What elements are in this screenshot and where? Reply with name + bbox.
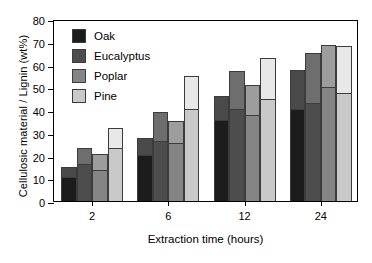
y-tick-label: 20 — [33, 152, 45, 164]
x-tick — [321, 201, 322, 206]
x-tick-label: 2 — [89, 210, 95, 222]
legend: OakEucalyptusPoplarPine — [72, 27, 150, 104]
bar-segment-lower — [93, 171, 107, 201]
bar-segment-divider — [169, 143, 183, 144]
bar-segment-divider — [291, 109, 305, 110]
bar-segment-lower — [306, 104, 320, 201]
bar-segment-divider — [322, 87, 336, 88]
legend-item-pine: Pine — [72, 87, 150, 104]
bar-eucalyptus-2h — [77, 148, 93, 201]
bar-pine-12h — [260, 58, 276, 201]
bar-segment-divider — [93, 170, 107, 171]
y-tick-label: 40 — [33, 106, 45, 118]
y-axis-title: Cellulosic material / Lignin (wt%) — [17, 16, 29, 216]
legend-swatch-icon — [72, 29, 86, 43]
bar-segment-lower — [185, 110, 199, 201]
bar-poplar-12h — [245, 85, 261, 201]
bar-segment-lower — [337, 94, 351, 201]
legend-item-label: Poplar — [94, 70, 127, 82]
legend-swatch-icon — [72, 89, 86, 103]
legend-item-label: Eucalyptus — [94, 50, 150, 62]
bar-segment-divider — [246, 115, 260, 116]
bar-poplar-2h — [92, 154, 108, 201]
bar-segment-divider — [215, 120, 229, 121]
legend-item-label: Oak — [94, 30, 115, 42]
bar-segment-lower — [138, 156, 152, 202]
bar-segment-divider — [154, 141, 168, 142]
plot-area: 01020304050607080261224 OakEucalyptusPop… — [53, 20, 358, 202]
y-tick — [48, 203, 54, 204]
bar-segment-lower — [215, 121, 229, 201]
bar-segment-lower — [62, 178, 76, 201]
bar-eucalyptus-24h — [305, 53, 321, 201]
bar-segment-lower — [78, 165, 92, 201]
bar-segment-lower — [261, 100, 275, 201]
bar-pine-2h — [108, 128, 124, 201]
bar-segment-lower — [230, 110, 244, 201]
bar-pine-24h — [336, 46, 352, 201]
bar-eucalyptus-6h — [153, 112, 169, 201]
bar-segment-lower — [246, 116, 260, 201]
bar-poplar-6h — [168, 121, 184, 201]
y-tick-label: 10 — [33, 174, 45, 186]
bar-pine-6h — [184, 76, 200, 201]
x-tick — [92, 201, 93, 206]
legend-swatch-icon — [72, 49, 86, 63]
x-tick — [168, 201, 169, 206]
legend-item-poplar: Poplar — [72, 67, 150, 84]
bar-oak-2h — [61, 167, 77, 201]
legend-swatch-icon — [72, 69, 86, 83]
bar-oak-6h — [137, 138, 153, 201]
y-tick-label: 30 — [33, 129, 45, 141]
bar-segment-divider — [230, 109, 244, 110]
bar-segment-divider — [306, 103, 320, 104]
y-tick-label: 80 — [33, 15, 45, 27]
y-tick-label: 0 — [39, 197, 45, 209]
y-tick-label: 50 — [33, 83, 45, 95]
bar-segment-divider — [261, 99, 275, 100]
bar-segment-lower — [291, 110, 305, 201]
legend-item-eucalyptus: Eucalyptus — [72, 47, 150, 64]
bar-segment-lower — [109, 149, 123, 201]
bar-eucalyptus-12h — [229, 71, 245, 201]
bar-segment-divider — [337, 93, 351, 94]
x-tick-label: 24 — [315, 210, 327, 222]
x-tick — [245, 201, 246, 206]
bar-segment-divider — [78, 164, 92, 165]
y-tick-label: 70 — [33, 38, 45, 50]
bar-chart-figure: Cellulosic material / Lignin (wt%) 01020… — [0, 0, 372, 263]
bar-segment-divider — [62, 177, 76, 178]
bar-segment-divider — [185, 109, 199, 110]
bar-segment-lower — [154, 142, 168, 201]
bar-segment-lower — [322, 88, 336, 201]
bar-oak-12h — [214, 96, 230, 201]
x-tick-label: 12 — [239, 210, 251, 222]
bar-segment-divider — [109, 148, 123, 149]
x-tick-label: 6 — [165, 210, 171, 222]
y-tick-label: 60 — [33, 61, 45, 73]
bar-segment-lower — [169, 144, 183, 201]
bar-segment-divider — [138, 155, 152, 156]
bar-poplar-24h — [321, 45, 337, 201]
legend-item-oak: Oak — [72, 27, 150, 44]
bar-oak-24h — [290, 70, 306, 201]
legend-item-label: Pine — [94, 90, 117, 102]
x-axis-title: Extraction time (hours) — [53, 233, 358, 245]
